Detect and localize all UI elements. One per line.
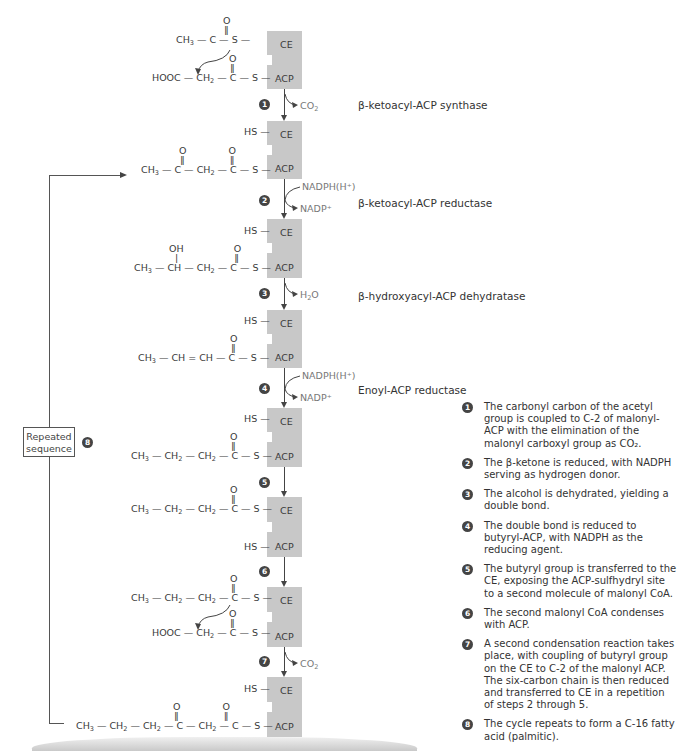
legend-badge: 6 <box>462 608 473 619</box>
legend-item-5: 5The butyryl group is transferred to the… <box>462 563 677 600</box>
structure-b3-ce: HS — <box>244 315 270 326</box>
legend-badge: 1 <box>462 402 473 413</box>
legend-text: The cycle repeats to form a C-16 fatty a… <box>484 718 675 741</box>
page-shadow <box>32 737 417 751</box>
legend-text: The β-ketone is reduced, with NADPH serv… <box>484 457 671 480</box>
structure-b6-ce: O‖ CH3 — CH2 — CH2 — C — S — <box>131 573 272 603</box>
legend-text: The carbonyl carbon of the acetyl group … <box>484 401 660 449</box>
structure-acetoacetyl-acp: OO ‖‖ CH3 — C — CH2 — C — S — <box>141 145 271 175</box>
legend-item-2: 2The β-ketone is reduced, with NADPH ser… <box>462 457 677 481</box>
step-legend: 1The carbonyl carbon of the acetyl group… <box>462 401 677 750</box>
structure-acetyl-ce: O‖ CH3 — C — S — <box>176 15 250 45</box>
step-3-badge: 3 <box>259 288 270 299</box>
structure-b4-ce: HS — <box>244 413 270 424</box>
legend-badge: 8 <box>462 719 473 730</box>
structure-butyryl-acp: O‖ CH3 — CH2 — CH2 — C — S — <box>131 431 272 461</box>
legend-badge: 5 <box>462 564 473 575</box>
legend-badge: 7 <box>462 639 473 650</box>
structure-ketohexanoyl-acp: OO ‖‖ CH3 — CH2 — CH2 — C — CH2 — C — S … <box>76 701 273 731</box>
legend-item-7: 7A second condensation reaction takes pl… <box>462 638 677 711</box>
legend-text: The alcohol is dehydrated, yielding a do… <box>484 488 669 511</box>
legend-text: A second condensation reaction takes pla… <box>484 638 674 710</box>
structure-b5-acp: HS — <box>244 541 270 552</box>
legend-text: The double bond is reduced to butyryl-AC… <box>484 520 643 555</box>
structure-crotonyl-acp: O‖ CH3 — CH = CH — C — S — <box>138 333 269 363</box>
step-4-nadp: NADP⁺ <box>300 392 332 403</box>
step-2-nadp: NADP⁺ <box>300 203 332 214</box>
step-1-co2: CO2 <box>300 100 318 113</box>
legend-item-3: 3The alcohol is dehydrated, yielding a d… <box>462 488 677 512</box>
enzyme-name-step-3: β-hydroxyacyl-ACP dehydratase <box>358 290 525 302</box>
legend-text: The second malonyl CoA condenses with AC… <box>484 607 664 630</box>
legend-badge: 4 <box>462 521 473 532</box>
legend-text: The butyryl group is transferred to the … <box>484 563 676 598</box>
enzyme-name-step-1: β-ketoacyl-ACP synthase <box>358 99 488 111</box>
enzyme-name-step-4: Enoyl-ACP reductase <box>358 384 467 396</box>
legend-item-4: 4The double bond is reduced to butyryl-A… <box>462 520 677 557</box>
legend-item-8: 8The cycle repeats to form a C-16 fatty … <box>462 718 677 742</box>
structure-b7-ce: HS — <box>244 683 270 694</box>
structure-malonyl-acp: O‖ HOOC — CH2 — C — S — <box>152 53 270 83</box>
step-4-nadph: NADPH(H⁺) <box>302 370 355 381</box>
structure-butyryl-ce: O‖ CH3 — CH2 — CH2 — C — S — <box>131 484 272 514</box>
legend-badge: 2 <box>462 458 473 469</box>
step-2-badge: 2 <box>259 195 270 206</box>
step-7-badge: 7 <box>259 656 270 667</box>
structure-hydroxybutyryl-acp: OHO |‖ CH3 — CH — CH2 — C — S — <box>134 243 271 273</box>
step-7-co2: CO2 <box>300 658 318 671</box>
legend-item-6: 6The second malonyl CoA condenses with A… <box>462 607 677 631</box>
step-3-h2o: H2O <box>300 289 319 302</box>
step-1-badge: 1 <box>259 99 270 110</box>
legend-item-1: 1The carbonyl carbon of the acetyl group… <box>462 401 677 450</box>
step-4-badge: 4 <box>259 383 270 394</box>
structure-b1-ce: HS — <box>244 126 270 137</box>
structure-b2-ce: HS — <box>244 225 270 236</box>
structure-b6-malonyl-acp: O‖ HOOC — CH2 — C — S — <box>152 608 270 638</box>
legend-badge: 3 <box>462 489 473 500</box>
enzyme-name-step-2: β-ketoacyl-ACP reductase <box>358 197 492 209</box>
step-2-nadph: NADPH(H⁺) <box>302 181 355 192</box>
